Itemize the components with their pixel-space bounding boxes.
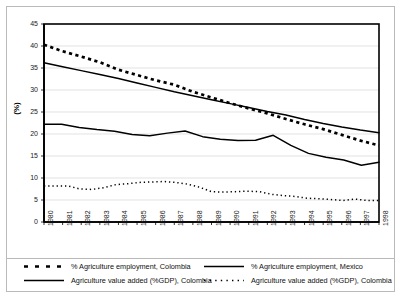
y-axis-tick-label: 10 bbox=[22, 174, 38, 181]
legend-item-agriculture-employment-mexico: % Agriculture employment, Mexico bbox=[202, 262, 363, 271]
legend-row-2: Agriculture value added (%GDP), Colombia… bbox=[6, 276, 395, 291]
x-axis-tick-label: 1994 bbox=[308, 210, 315, 226]
y-axis-tick-label: 25 bbox=[22, 108, 38, 115]
x-axis-tick-label: 1995 bbox=[326, 210, 333, 226]
x-axis-tick-label: 1982 bbox=[84, 210, 91, 226]
x-axis-tick-label: 1990 bbox=[233, 210, 240, 226]
y-axis-tick-label: 15 bbox=[22, 152, 38, 159]
legend-item-value-added-colombia-solid: Agriculture value added (%GDP), Colombia bbox=[22, 276, 212, 285]
legend-item-agriculture-employment-colombia: % Agriculture employment, Colombia bbox=[22, 262, 191, 271]
legend-item-value-added-colombia-dotted: Agriculture value added (%GDP), Colombia bbox=[202, 276, 392, 285]
legend-label: Agriculture value added (%GDP), Colombia bbox=[251, 276, 392, 285]
y-axis-tick-label: 35 bbox=[22, 64, 38, 71]
y-axis-tick-label: 20 bbox=[22, 130, 38, 137]
legend-swatch-dashed-thick bbox=[22, 262, 66, 271]
legend-label: % Agriculture employment, Mexico bbox=[251, 262, 363, 271]
x-axis-tick-label: 1985 bbox=[140, 210, 147, 226]
x-axis-tick-label: 1980 bbox=[47, 210, 54, 226]
legend-swatch-solid bbox=[22, 276, 66, 285]
chart-figure: (%) 051015202530354045 19801981198219831… bbox=[0, 0, 401, 298]
x-axis-tick-label: 1984 bbox=[121, 210, 128, 226]
legend-row-1: % Agriculture employment, Colombia % Agr… bbox=[6, 262, 395, 277]
x-axis-tick-label: 1986 bbox=[159, 210, 166, 226]
y-axis-tick-label: 0 bbox=[22, 218, 38, 225]
chart-canvas bbox=[0, 0, 401, 298]
x-axis-tick-label: 1987 bbox=[177, 210, 184, 226]
x-axis-tick-label: 1997 bbox=[363, 210, 370, 226]
x-axis-tick-label: 1989 bbox=[215, 210, 222, 226]
x-axis-tick-label: 1998 bbox=[382, 210, 389, 226]
legend-swatch-solid bbox=[202, 262, 246, 271]
legend-label: % Agriculture employment, Colombia bbox=[71, 262, 191, 271]
y-axis-tick-label: 40 bbox=[22, 42, 38, 49]
y-axis-tick-label: 45 bbox=[22, 20, 38, 27]
y-axis-title: (%) bbox=[12, 102, 21, 116]
y-axis-tick-label: 30 bbox=[22, 86, 38, 93]
legend-swatch-dotted bbox=[202, 276, 246, 285]
plot-area bbox=[0, 0, 401, 298]
x-axis-tick-label: 1988 bbox=[196, 210, 203, 226]
x-axis-tick-label: 1981 bbox=[66, 210, 73, 226]
legend-label: Agriculture value added (%GDP), Colombia bbox=[71, 276, 212, 285]
chart-legend: % Agriculture employment, Colombia % Agr… bbox=[6, 258, 395, 292]
x-axis-tick-label: 1993 bbox=[289, 210, 296, 226]
x-axis-tick-label: 1991 bbox=[252, 210, 259, 226]
y-axis-tick-label: 5 bbox=[22, 196, 38, 203]
x-axis-tick-label: 1992 bbox=[270, 210, 277, 226]
x-axis-tick-label: 1983 bbox=[103, 210, 110, 226]
x-axis-tick-label: 1996 bbox=[345, 210, 352, 226]
